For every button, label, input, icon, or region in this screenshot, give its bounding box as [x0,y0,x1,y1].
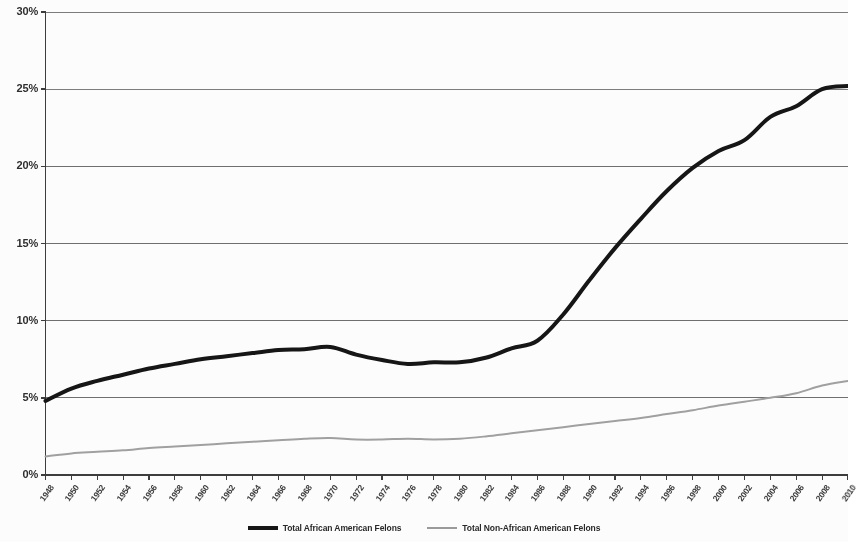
x-tickmarks-group [46,475,849,480]
series-line-1 [46,381,849,457]
series-paths-group [46,86,849,456]
chart-legend: Total African American FelonsTotal Non-A… [0,518,848,538]
y-tick-label: 30% [2,5,38,17]
y-tick-label: 20% [2,159,38,171]
legend-swatch-icon [248,526,278,530]
y-tick-label: 25% [2,82,38,94]
legend-swatch-icon [427,527,457,529]
y-tick-label: 0% [2,468,38,480]
y-tick-label: 10% [2,314,38,326]
y-tick-label: 15% [2,237,38,249]
legend-item[interactable]: Total African American Felons [248,523,402,533]
legend-label: Total Non-African American Felons [462,523,600,533]
y-tick-label: 5% [2,391,38,403]
gridlines-group [46,12,849,475]
legend-label: Total African American Felons [283,523,402,533]
legend-item[interactable]: Total Non-African American Felons [427,523,600,533]
